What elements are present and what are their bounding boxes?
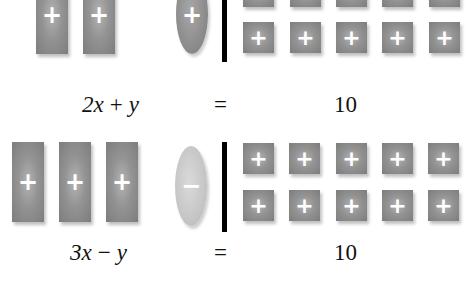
y-tile-positive: + — [176, 0, 208, 54]
y-tile-negative: − — [175, 146, 207, 226]
plus-icon: + — [434, 148, 452, 170]
unit-tile-positive: + — [243, 22, 274, 53]
unit-tile-positive: + — [428, 143, 459, 174]
x-tile-positive: + — [83, 0, 115, 54]
unit-tile-positive: + — [336, 190, 367, 221]
unit-tile-positive: + — [243, 0, 274, 7]
plus-icon: + — [296, 27, 314, 49]
unit-tile-positive: + — [382, 22, 413, 53]
plus-icon: + — [249, 0, 267, 3]
plus-icon: + — [65, 170, 85, 194]
unit-tile-positive: + — [290, 22, 321, 53]
equals-divider — [222, 0, 227, 62]
equation-1-equals: = — [214, 92, 227, 118]
x-tile-positive: + — [59, 142, 91, 222]
equation-2-equals: = — [214, 240, 227, 266]
unit-tile-positive: + — [382, 0, 413, 7]
plus-icon: + — [388, 148, 406, 170]
equation-1-rhs: 10 — [334, 92, 357, 118]
plus-icon: + — [18, 170, 38, 194]
term-y: y — [129, 92, 139, 117]
unit-tile-positive: + — [243, 143, 274, 174]
equation-1-lhs: 2x+y — [82, 92, 139, 118]
unit-tile-positive: + — [336, 143, 367, 174]
unit-tile-positive: + — [243, 190, 274, 221]
equation-2-lhs: 3x−y — [70, 240, 127, 266]
unit-tile-positive: + — [336, 22, 367, 53]
unit-tile-positive: + — [289, 143, 320, 174]
term-2x: 2x — [82, 92, 104, 117]
plus-icon: + — [388, 27, 406, 49]
x-tile-positive: + — [36, 0, 68, 54]
plus-icon: + — [435, 27, 453, 49]
plus-icon: + — [435, 0, 453, 3]
plus-icon: + — [342, 27, 360, 49]
x-tile-positive: + — [12, 142, 44, 222]
unit-tile-positive: + — [382, 190, 413, 221]
plus-icon: + — [89, 3, 109, 27]
plus-icon: + — [112, 170, 132, 194]
term-3x: 3x — [70, 240, 92, 265]
plus-icon: + — [249, 195, 267, 217]
unit-tile-positive: + — [429, 0, 460, 7]
unit-tile-positive: + — [429, 22, 460, 53]
unit-tile-positive: + — [336, 0, 367, 7]
plus-icon: + — [388, 195, 406, 217]
equation-2-rhs: 10 — [334, 240, 357, 266]
term-y: y — [117, 240, 127, 265]
x-tile-positive: + — [106, 142, 138, 222]
plus-icon: + — [249, 27, 267, 49]
plus-icon: + — [295, 148, 313, 170]
plus-icon: + — [342, 148, 360, 170]
plus-icon: + — [295, 195, 313, 217]
operator-minus: − — [92, 240, 117, 265]
unit-tile-positive: + — [382, 143, 413, 174]
unit-tile-positive: + — [289, 190, 320, 221]
operator-plus: + — [104, 92, 129, 117]
plus-icon: + — [42, 3, 62, 27]
plus-icon: + — [182, 3, 202, 27]
unit-tile-positive: + — [428, 190, 459, 221]
plus-icon: + — [388, 0, 406, 3]
plus-icon: + — [342, 0, 360, 3]
unit-tile-positive: + — [290, 0, 321, 7]
plus-icon: + — [296, 0, 314, 3]
plus-icon: + — [342, 195, 360, 217]
equals-divider — [222, 142, 227, 232]
minus-icon: − — [181, 174, 201, 198]
plus-icon: + — [249, 148, 267, 170]
plus-icon: + — [434, 195, 452, 217]
